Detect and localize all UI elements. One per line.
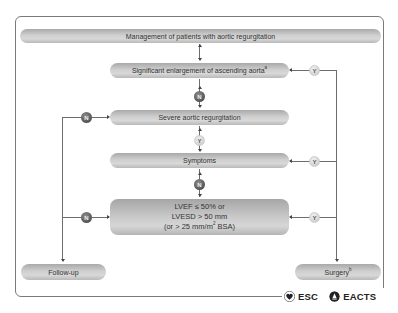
arrow-up-icon — [198, 86, 202, 89]
no-decision-icon: N — [81, 112, 92, 123]
follow-up-box: Follow-up — [21, 264, 106, 280]
symptoms-label: Symptoms — [183, 156, 216, 165]
arrow-left-icon — [289, 159, 292, 163]
connector — [62, 117, 63, 260]
eacts-logo-text: EACTS — [343, 291, 376, 302]
arrow-up-icon — [198, 172, 202, 175]
arrow-right-icon — [107, 215, 110, 219]
lvef-label: LVEF ≤ 50% or — [174, 202, 224, 212]
esc-logo-text: ESC — [298, 291, 318, 302]
severe-ar-label: Severe aortic regurgitation — [158, 113, 240, 122]
title-label: Management of patients with aortic regur… — [126, 32, 275, 41]
arrow-down-icon — [198, 58, 202, 61]
arrow-left-icon — [289, 215, 292, 219]
connector — [336, 70, 337, 260]
arrow-down-icon — [198, 149, 202, 152]
yes-decision-icon: Y — [194, 135, 205, 146]
yes-decision-icon: Y — [309, 212, 320, 223]
eacts-emblem-icon — [329, 291, 340, 302]
arrow-left-icon — [289, 68, 292, 72]
surgery-label: Surgeryb — [324, 268, 351, 277]
surgery-box: Surgeryb — [295, 264, 381, 280]
lv-criteria-box: LVEF ≤ 50% or LVESD > 50 mm (or > 25 mm/… — [110, 199, 289, 235]
lvesd-bsa-label: (or > 25 mm/m2 BSA) — [164, 222, 235, 232]
yes-decision-icon: Y — [309, 156, 320, 167]
arrow-down-icon — [198, 194, 202, 197]
severe-ar-box: Severe aortic regurgitation — [110, 110, 289, 125]
enlargement-box: Significant enlargement of ascending aor… — [110, 63, 289, 78]
lvesd-label: LVESD > 50 mm — [172, 212, 228, 222]
arrow-right-icon — [107, 115, 110, 119]
title-box: Management of patients with aortic regur… — [20, 29, 381, 43]
arrow-down-icon — [335, 259, 339, 262]
arrow-up-icon — [198, 128, 202, 131]
yes-decision-icon: Y — [309, 65, 320, 76]
no-decision-icon: N — [194, 91, 205, 102]
arrow-down-icon — [198, 105, 202, 108]
no-decision-icon: N — [81, 212, 92, 223]
arrow-down-icon — [61, 259, 65, 262]
logos-bar: ESC EACTS — [282, 288, 388, 304]
no-decision-icon: N — [194, 179, 205, 190]
symptoms-box: Symptoms — [110, 153, 289, 168]
esc-heart-icon — [284, 291, 295, 302]
follow-up-label: Follow-up — [48, 268, 78, 277]
arrow-up-icon — [198, 44, 202, 47]
enlargement-label: Significant enlargement of ascending aor… — [132, 66, 267, 75]
